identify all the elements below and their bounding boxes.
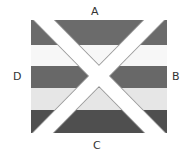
band-2 (31, 45, 167, 66)
diagram-graphic (0, 0, 184, 156)
band-4 (31, 88, 167, 110)
label-right: B (172, 71, 180, 82)
label-top: A (91, 6, 99, 17)
label-bottom: C (93, 140, 101, 151)
label-left: D (13, 71, 21, 82)
striped-rectangle-diagram: A B C D (0, 0, 184, 156)
